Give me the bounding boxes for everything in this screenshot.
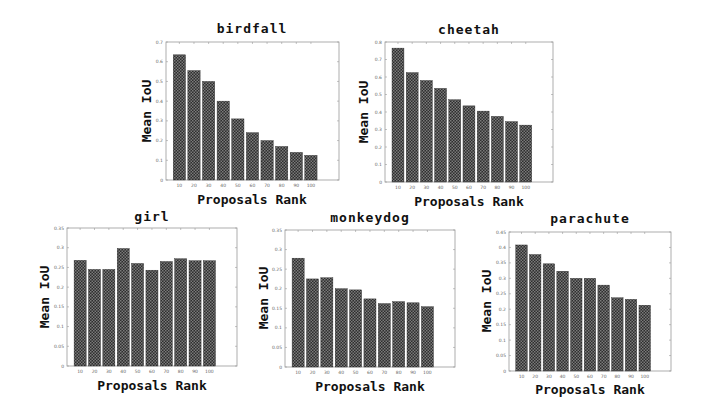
bar-100 (203, 261, 215, 366)
x-tick-label: 100 (307, 183, 316, 188)
bar-50 (571, 278, 582, 371)
bar-20 (529, 255, 540, 371)
y-tick-label: 0.15 (272, 306, 282, 311)
x-tick-label: 10 (395, 185, 401, 190)
bar-100 (421, 307, 433, 367)
x-axis-label: Proposals Rank (535, 382, 645, 397)
bar-20 (306, 279, 318, 367)
y-tick-label: 0.7 (375, 57, 382, 62)
y-tick-label: 0.35 (54, 226, 64, 231)
x-tick-label: 10 (77, 369, 83, 374)
x-tick-label: 70 (480, 185, 486, 190)
y-tick-label: 0.45 (496, 230, 506, 235)
y-tick-label: 0.25 (272, 267, 282, 272)
chart-title: girl (134, 209, 169, 224)
y-tick-label: 0.3 (499, 276, 506, 281)
x-tick-label: 30 (206, 183, 212, 188)
x-tick-label: 70 (381, 370, 387, 375)
x-tick-label: 60 (250, 183, 256, 188)
bar-50 (350, 290, 362, 367)
x-tick-label: 90 (410, 370, 416, 375)
bar-40 (117, 249, 129, 366)
y-axis-label: Mean IoU (356, 81, 371, 144)
y-axis-label: Mean IoU (37, 266, 52, 329)
x-tick-label: 70 (601, 374, 607, 379)
y-tick-label: 0.3 (375, 127, 382, 132)
bar-80 (491, 116, 503, 182)
x-tick-label: 80 (279, 183, 285, 188)
panel-birdfall: birdfall Mean IoU Proposals Rank 00.10.2… (139, 21, 339, 207)
x-tick-label: 70 (163, 369, 169, 374)
bar-40 (435, 88, 447, 182)
y-tick-label: 0.05 (272, 345, 282, 350)
x-tick-label: 20 (409, 185, 415, 190)
x-tick-label: 70 (264, 183, 270, 188)
bar-70 (598, 285, 609, 371)
x-tick-label: 100 (640, 374, 649, 379)
x-tick-label: 30 (546, 374, 552, 379)
panel-parachute: parachute Mean IoU Proposals Rank 00.050… (479, 211, 671, 397)
y-tick-label: 0.3 (57, 245, 64, 250)
x-tick-label: 40 (560, 374, 566, 379)
bar-30 (420, 81, 432, 183)
x-tick-label: 10 (176, 183, 182, 188)
bar-30 (103, 269, 115, 366)
x-tick-label: 80 (494, 185, 500, 190)
y-tick-label: 0.35 (496, 260, 506, 265)
bar-70 (477, 111, 489, 182)
bar-90 (506, 122, 518, 182)
bar-70 (378, 304, 390, 367)
x-tick-label: 80 (178, 369, 184, 374)
x-tick-label: 40 (338, 370, 344, 375)
x-tick-label: 90 (192, 369, 198, 374)
bar-30 (543, 264, 554, 371)
chart-title: monkeydog (330, 210, 409, 225)
bar-40 (557, 271, 568, 371)
x-tick-label: 100 (521, 185, 530, 190)
y-tick-label: 0.2 (57, 285, 64, 290)
bar-20 (88, 269, 100, 366)
y-axis-label: Mean IoU (139, 80, 154, 143)
bar-40 (335, 289, 347, 367)
x-tick-label: 30 (106, 369, 112, 374)
bar-100 (305, 155, 317, 180)
x-tick-label: 30 (424, 185, 430, 190)
bar-10 (516, 245, 527, 371)
y-tick-label: 0 (279, 365, 282, 370)
y-tick-label: 0 (503, 369, 506, 374)
y-tick-label: 0.4 (156, 99, 163, 104)
x-tick-label: 30 (324, 370, 330, 375)
x-tick-label: 20 (310, 370, 316, 375)
bar-50 (132, 263, 144, 366)
x-axis-label: Proposals Rank (315, 379, 425, 394)
chart-title: cheetah (438, 22, 500, 37)
bar-20 (406, 73, 418, 182)
y-tick-label: 0.1 (156, 158, 163, 163)
y-tick-label: 0.2 (375, 145, 382, 150)
y-tick-label: 0.2 (499, 307, 506, 312)
bar-90 (625, 299, 636, 371)
bar-10 (74, 260, 86, 366)
x-tick-label: 10 (519, 374, 525, 379)
bar-10 (292, 258, 304, 367)
x-tick-label: 90 (509, 185, 515, 190)
y-tick-label: 0.4 (499, 245, 506, 250)
y-tick-label: 0 (160, 178, 163, 183)
y-tick-label: 0.1 (375, 162, 382, 167)
bar-70 (261, 141, 273, 180)
bar-50 (232, 119, 244, 180)
bar-100 (520, 125, 532, 182)
y-tick-label: 0.3 (275, 247, 282, 252)
y-tick-label: 0.15 (496, 322, 506, 327)
bar-40 (217, 101, 229, 180)
y-axis-label: Mean IoU (256, 267, 271, 330)
bar-60 (463, 106, 475, 182)
y-tick-label: 0.2 (275, 286, 282, 291)
x-tick-label: 40 (120, 369, 126, 374)
bar-60 (584, 278, 595, 371)
x-tick-label: 60 (587, 374, 593, 379)
x-tick-label: 50 (353, 370, 359, 375)
panel-monkeydog: monkeydog Mean IoU Proposals Rank 00.050… (256, 210, 455, 394)
y-tick-label: 0.3 (156, 118, 163, 123)
bar-90 (189, 261, 201, 366)
